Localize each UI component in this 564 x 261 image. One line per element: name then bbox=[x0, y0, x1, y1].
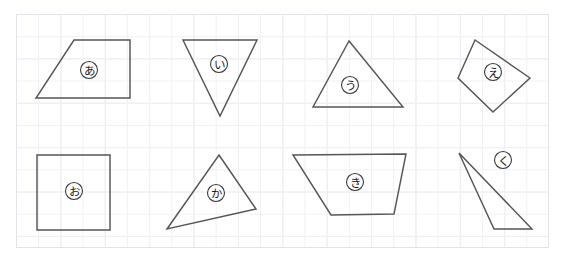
shape-group-ki[interactable]: き bbox=[293, 154, 406, 215]
shape-i-label-text: い bbox=[214, 58, 225, 72]
shape-ku-label-text: く bbox=[498, 154, 509, 168]
shape-group-a[interactable]: あ bbox=[36, 40, 130, 98]
shape-group-e[interactable]: え bbox=[458, 40, 530, 112]
worksheet-canvas: あ い う え お か き bbox=[0, 0, 564, 261]
shape-group-o[interactable]: お bbox=[37, 155, 110, 230]
shape-group-u[interactable]: う bbox=[313, 41, 403, 107]
shape-u-label-text: う bbox=[345, 79, 356, 93]
shape-group-ku[interactable]: く bbox=[459, 152, 532, 230]
shape-o-label-text: お bbox=[69, 185, 80, 199]
shape-i-outline[interactable] bbox=[183, 40, 257, 116]
shape-group-i[interactable]: い bbox=[183, 40, 257, 116]
shape-e-label-text: え bbox=[488, 66, 499, 80]
shape-u-outline[interactable] bbox=[313, 41, 403, 107]
shape-group-ka[interactable]: か bbox=[167, 155, 256, 229]
shape-layer: あ い う え お か き bbox=[0, 0, 564, 261]
shape-a-label-text: あ bbox=[84, 64, 95, 78]
shape-ka-label-text: か bbox=[211, 187, 223, 201]
shape-ki-label-text: き bbox=[350, 176, 361, 190]
